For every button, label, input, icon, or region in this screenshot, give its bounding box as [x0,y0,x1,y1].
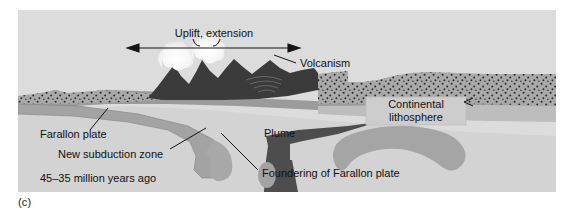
cross-section-diagram: Uplift, extension Volcanism Continental … [18,10,556,192]
label-continental-lithosphere-line1: Continental [388,98,444,110]
label-uplift-extension: Uplift, extension [175,27,253,39]
panel-caption: (c) [18,196,31,208]
label-farallon-plate: Farallon plate [40,128,107,140]
figure-root: Uplift, extension Volcanism Continental … [0,0,578,218]
label-foundering-farallon-plate: Foundering of Farallon plate [262,167,400,179]
diagram-panel: Uplift, extension Volcanism Continental … [18,10,556,192]
label-plume: Plume [264,127,295,139]
label-time-period: 45–35 million years ago [40,172,156,184]
label-new-subduction-zone: New subduction zone [58,148,163,160]
label-continental-lithosphere-line2: lithosphere [389,111,443,123]
label-volcanism: Volcanism [300,57,350,69]
